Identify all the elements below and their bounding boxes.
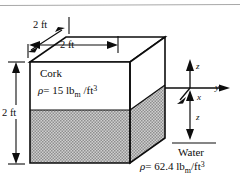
height-dim-arrow-top [12,62,20,73]
figure-container: 2 ft 2 ft 2 ft Cork ρ= 15 lbm /ft3 Water… [0,0,245,180]
cork-material-label: Cork [40,68,62,79]
water-density-label: ρ= 62.4 lbm/ft3 [140,161,205,174]
water-density-unit-exponent: 3 [201,160,205,169]
water-density-value: 62.4 [154,160,173,172]
depth-z-arrow-bottom [186,129,194,140]
axis-x-label: x [197,93,201,102]
water-material-label: Water [178,147,204,158]
water-density-unit-per: /ft [191,160,201,172]
cork-density-unit-subscript: m [75,90,81,99]
cork-density-unit-per: /ft [83,84,93,96]
cork-density-unit: lb [66,84,75,96]
height-dimension-label: 2 ft [2,108,16,119]
cork-density-unit-exponent: 3 [93,84,97,93]
depth-dim-arrow-start [28,47,38,53]
cork-density-equals: = [43,84,49,96]
axis-y-label: y [215,83,219,92]
submerged-depth-z-label: z [196,113,200,122]
depth-dimension-label: 2 ft [33,20,47,31]
water-density-equals: = [145,160,151,172]
cork-density-label: ρ= 15 lbm /ft3 [38,85,97,98]
axis-y-arrowhead [219,85,230,92]
axis-z-up-label: z [196,62,200,71]
height-dim-arrow-bottom [12,153,20,164]
page-rule [0,5,240,6]
cork-density-value: 15 [52,84,63,96]
axis-z-up-arrowhead [186,59,194,71]
front-face-water [30,110,130,163]
width-dimension-label: 2 ft [60,40,74,51]
water-density-unit: lb [176,160,185,172]
